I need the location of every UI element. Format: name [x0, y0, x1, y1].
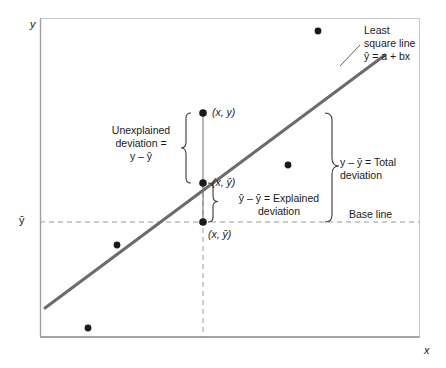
total-deviation-label: y – ȳ = Total deviation	[340, 156, 424, 182]
unexplained-deviation-label: Unexplained deviation = y – ŷ	[104, 124, 178, 162]
point-x-y	[199, 109, 207, 117]
point-x-ybar-label: (x, ȳ)	[208, 228, 231, 241]
least-square-line-title: Least square line	[364, 24, 415, 49]
regression-deviation-diagram: y x ȳ (x, y) (x, ŷ) (x, ȳ) Unexplained d…	[0, 0, 446, 368]
y-axis-label: y	[30, 18, 36, 31]
y-bar-tick-label: ȳ	[19, 214, 25, 227]
point-x-y-label: (x, y)	[212, 106, 235, 119]
point-x-ybar	[199, 218, 207, 226]
least-square-line-equation: ŷ = a + bx	[364, 50, 444, 63]
scatter-point	[315, 28, 322, 35]
base-line-label: Base line	[349, 208, 392, 221]
explained-deviation-label: ŷ – ȳ = Explained deviation	[215, 192, 343, 218]
scatter-point	[285, 162, 292, 169]
point-x-yhat	[199, 179, 207, 187]
point-x-yhat-label: (x, ŷ)	[212, 176, 235, 189]
scatter-point	[85, 325, 92, 332]
least-square-line-label: Least square lineŷ = a + bx	[364, 24, 444, 62]
x-axis-label: x	[424, 344, 430, 357]
scatter-point	[114, 242, 121, 249]
